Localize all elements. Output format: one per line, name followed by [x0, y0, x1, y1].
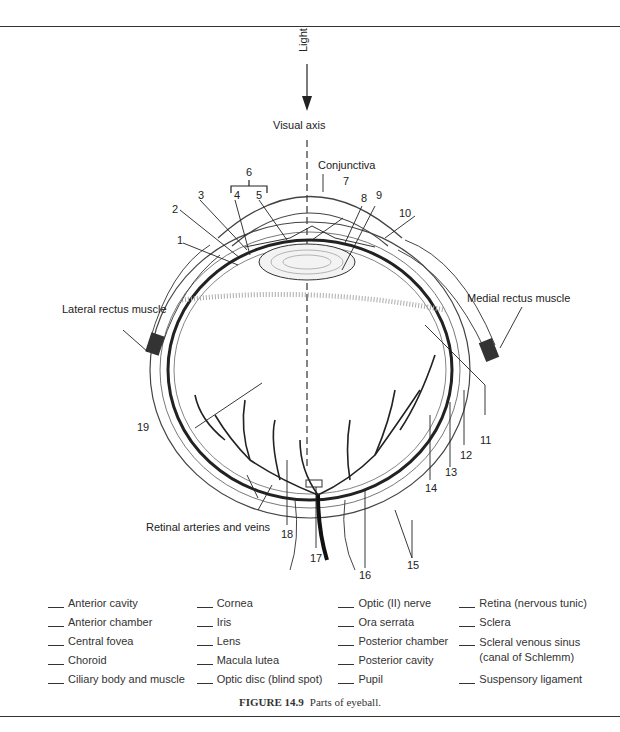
- answer-legend: Anterior cavity Anterior chamber Central…: [48, 597, 608, 692]
- label-light: Light: [298, 28, 309, 52]
- label-lateral-rectus: Lateral rectus muscle: [62, 304, 167, 315]
- legend-column-2: Cornea Iris Lens Macula lutea Optic disc…: [197, 597, 339, 692]
- answer-blank[interactable]: [48, 673, 64, 684]
- legend-item: Anterior chamber: [48, 616, 197, 635]
- number-16: 16: [359, 570, 371, 581]
- legend-item: Optic (II) nerve: [338, 597, 459, 616]
- legend-item: Macula lutea: [197, 654, 339, 673]
- answer-blank[interactable]: [197, 635, 213, 646]
- answer-blank[interactable]: [338, 635, 354, 646]
- answer-blank[interactable]: [48, 654, 64, 665]
- number-7: 7: [343, 176, 349, 187]
- number-6: 6: [246, 167, 252, 178]
- legend-item: Choroid: [48, 654, 197, 673]
- legend-item: Ciliary body and muscle: [48, 673, 197, 692]
- number-4: 4: [234, 190, 240, 201]
- legend-item: Central fovea: [48, 635, 197, 654]
- number-9: 9: [376, 190, 382, 201]
- answer-blank[interactable]: [197, 616, 213, 627]
- label-visual-axis: Visual axis: [273, 120, 325, 131]
- legend-column-3: Optic (II) nerve Ora serrata Posterior c…: [338, 597, 459, 692]
- label-conjunctiva: Conjunctiva: [318, 160, 375, 171]
- figure-title: Parts of eyeball.: [310, 696, 381, 708]
- number-18: 18: [281, 529, 293, 540]
- number-2: 2: [172, 204, 178, 215]
- legend-column-4: Retina (nervous tunic) Sclera Scleral ve…: [459, 597, 608, 692]
- legend-item: Posterior cavity: [338, 654, 459, 673]
- answer-blank[interactable]: [459, 673, 475, 684]
- legend-item: Pupil: [338, 673, 459, 692]
- number-17: 17: [310, 553, 322, 564]
- answer-blank[interactable]: [197, 673, 213, 684]
- number-5: 5: [256, 190, 262, 201]
- answer-blank[interactable]: [48, 616, 64, 627]
- number-8: 8: [361, 193, 367, 204]
- number-19: 19: [137, 422, 149, 433]
- number-11: 11: [480, 435, 491, 446]
- bottom-rule: [0, 716, 620, 717]
- number-13: 13: [445, 467, 457, 478]
- answer-blank[interactable]: [459, 616, 475, 627]
- answer-blank[interactable]: [197, 654, 213, 665]
- answer-blank[interactable]: [459, 597, 475, 608]
- legend-item: Scleral venous sinus (canal of Schlemm): [459, 635, 589, 673]
- number-12: 12: [460, 450, 472, 461]
- answer-blank[interactable]: [459, 635, 475, 646]
- legend-item: Anterior cavity: [48, 597, 197, 616]
- number-15: 15: [407, 560, 419, 571]
- answer-blank[interactable]: [338, 673, 354, 684]
- arrow-icon: [302, 96, 312, 111]
- legend-item: Posterior chamber: [338, 635, 459, 654]
- answer-blank[interactable]: [197, 597, 213, 608]
- answer-blank[interactable]: [338, 654, 354, 665]
- figure-number: FIGURE 14.9: [239, 696, 304, 708]
- legend-item: Ora serrata: [338, 616, 459, 635]
- answer-blank[interactable]: [48, 597, 64, 608]
- label-medial-rectus: Medial rectus muscle: [467, 293, 570, 304]
- legend-item: Cornea: [197, 597, 339, 616]
- legend-item: Iris: [197, 616, 339, 635]
- legend-item: Optic disc (blind spot): [197, 673, 339, 692]
- number-3: 3: [198, 190, 204, 201]
- figure-caption: FIGURE 14.9Parts of eyeball.: [0, 696, 620, 708]
- legend-item: Lens: [197, 635, 339, 654]
- number-10: 10: [399, 208, 411, 219]
- number-1: 1: [177, 235, 183, 246]
- answer-blank[interactable]: [338, 616, 354, 627]
- number-14: 14: [425, 483, 437, 494]
- answer-blank[interactable]: [338, 597, 354, 608]
- answer-blank[interactable]: [48, 635, 64, 646]
- legend-item: Suspensory ligament: [459, 673, 608, 692]
- legend-column-1: Anterior cavity Anterior chamber Central…: [48, 597, 197, 692]
- label-retinal-vessels: Retinal arteries and veins: [146, 522, 270, 533]
- legend-item: Sclera: [459, 616, 608, 635]
- legend-item: Retina (nervous tunic): [459, 597, 608, 616]
